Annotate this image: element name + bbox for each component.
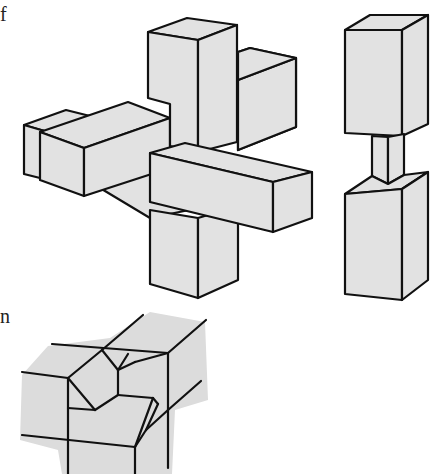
corner-detail-view bbox=[20, 312, 208, 474]
back-right-bar bbox=[238, 48, 296, 150]
single-piece-view bbox=[345, 15, 428, 300]
assembled-joint-view bbox=[24, 18, 312, 298]
joint-illustration bbox=[0, 0, 447, 474]
